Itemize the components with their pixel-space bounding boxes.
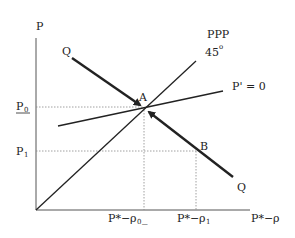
svg-text:0: 0	[137, 218, 141, 226]
y-axis-label: P	[36, 20, 44, 33]
ppp-label: PPP	[207, 28, 230, 41]
point-b-label: B	[200, 140, 208, 153]
svg-text:P: P	[16, 100, 24, 113]
svg-text:_: _	[142, 212, 148, 225]
x0-tick-label: P*−ρ 0 _	[108, 212, 148, 226]
svg-text:P*−ρ: P*−ρ	[177, 212, 206, 225]
svg-text:1: 1	[24, 151, 28, 159]
degree-mark: o	[219, 43, 223, 51]
q-top-label: Q	[62, 45, 71, 58]
svg-text:P: P	[16, 145, 24, 158]
p-prime-zero-label: P' = 0	[232, 80, 266, 93]
point-a-label: A	[138, 91, 148, 104]
p1-tick-label: P 1	[16, 145, 28, 159]
svg-text:1: 1	[206, 218, 210, 226]
q-line-lower	[149, 112, 233, 177]
angle-label: 45	[205, 46, 219, 59]
x-axis-label: P*−ρ	[251, 212, 280, 225]
p0-tick-label: P 0	[16, 100, 30, 114]
ppp-45-degree-line	[36, 61, 196, 210]
x1-tick-label: P*−ρ 1	[177, 212, 210, 226]
q-bottom-label: Q	[237, 181, 246, 194]
diagram-canvas: P P*−ρ PPP 45 o P' = 0 Q Q A B P 0 P 1 P…	[0, 0, 295, 238]
svg-text:P*−ρ: P*−ρ	[108, 212, 137, 225]
q-line-upper	[72, 58, 140, 105]
